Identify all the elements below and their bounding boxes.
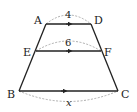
length-ad: 4 [65,9,71,20]
label-c: C [121,88,129,101]
label-a: A [33,14,43,27]
length-ef: 6 [65,37,71,48]
label-d: D [94,14,103,27]
label-b: B [7,88,15,101]
trapezoid-diagram: A D E F B C 4 6 x [0,0,137,112]
label-f: F [104,46,112,59]
label-e: E [23,46,31,59]
length-bc: x [66,97,72,108]
